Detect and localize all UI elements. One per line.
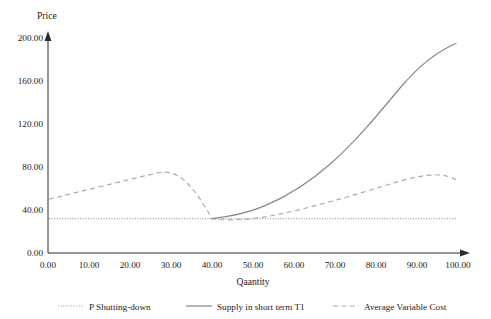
y-tick-label-160: 160.00 [18, 76, 44, 86]
y-tick-label-40: 40.00 [22, 205, 43, 215]
economics-supply-chart: Price 200.00 160.00 120.00 80.00 40.00 0… [0, 0, 491, 319]
y-tick-label-0: 0.00 [27, 248, 43, 258]
x-tick-label-60: 60.00 [284, 260, 305, 270]
y-tick-label-200: 200.00 [18, 33, 44, 43]
x-tick-label-40: 40.00 [202, 260, 223, 270]
legend-item-average-variable-cost[interactable]: Average Variable Cost [333, 302, 447, 312]
x-tick-label-50: 50.00 [243, 260, 264, 270]
x-tick-label-0: 0.00 [40, 260, 56, 270]
legend-label-p-shutting-down: P Shutting-down [89, 302, 151, 312]
y-axis-arrow-icon [45, 31, 52, 41]
x-tick-label-90: 90.00 [407, 260, 428, 270]
x-axis-title: Qaantity [236, 276, 269, 287]
legend-item-p-shutting-down[interactable]: P Shutting-down [58, 302, 151, 312]
x-tick-label-20: 20.00 [120, 260, 141, 270]
y-axis-title: Price [37, 10, 57, 21]
chart-container: Price 200.00 160.00 120.00 80.00 40.00 0… [0, 0, 491, 319]
series-supply-short-term [212, 44, 456, 219]
x-tick-label-70: 70.00 [325, 260, 346, 270]
series-average-variable-cost [49, 172, 456, 220]
legend-label-supply-short-term: Supply in short term T1 [217, 302, 305, 312]
chart-legend: P Shutting-down Supply in short term T1 … [58, 302, 447, 312]
x-tick-label-10: 10.00 [79, 260, 100, 270]
y-tick-label-120: 120.00 [18, 119, 44, 129]
legend-item-supply-short-term[interactable]: Supply in short term T1 [186, 302, 305, 312]
x-tick-label-80: 80.00 [366, 260, 387, 270]
y-tick-label-80: 80.00 [22, 162, 43, 172]
x-tick-label-30: 30.00 [161, 260, 182, 270]
x-axis-arrow-icon [460, 250, 470, 257]
x-tick-label-100: 100.00 [445, 260, 471, 270]
legend-label-average-variable-cost: Average Variable Cost [364, 302, 447, 312]
